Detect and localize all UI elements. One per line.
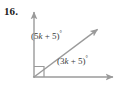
angle-label-upper-suffix: + 5) (43, 31, 60, 41)
vertex-point (33, 76, 35, 78)
angle-diagram-svg (0, 0, 120, 98)
angle-label-upper-prefix: (5 (31, 31, 39, 41)
angle-label-lower-suffix: + 5) (69, 56, 86, 66)
angle-label-lower-prefix: (3 (57, 56, 65, 66)
geometry-problem-figure: 16. (5k + 5)° (3k + 5)° (0, 0, 120, 98)
angle-label-lower-degree: ° (86, 55, 88, 61)
angle-label-upper: (5k + 5)° (31, 31, 62, 42)
angle-label-lower: (3k + 5)° (57, 56, 88, 67)
angle-label-upper-degree: ° (60, 30, 62, 36)
